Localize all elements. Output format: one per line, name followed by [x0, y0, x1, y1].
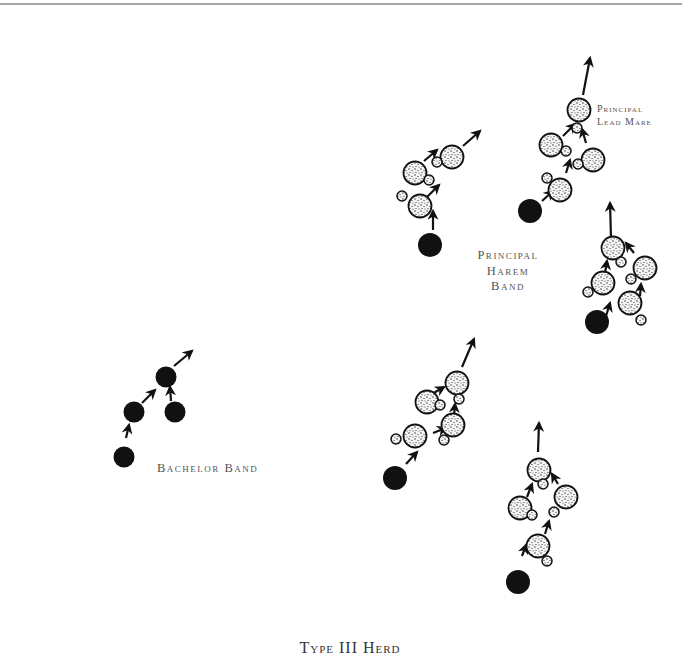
movement-arrow-icon [463, 131, 480, 146]
movement-arrow-icon [582, 129, 586, 143]
mare-icon [446, 372, 469, 395]
mare-icon [528, 459, 551, 482]
movement-arrow-icon [126, 425, 129, 438]
foal-icon [454, 394, 464, 404]
foal-icon [583, 287, 593, 297]
foal-icon [549, 507, 559, 517]
foal-icon [439, 435, 449, 445]
stallion-icon [585, 310, 609, 334]
label-line: Principal [597, 104, 652, 114]
mare-icon [442, 414, 465, 437]
movement-arrow-icon [552, 474, 558, 484]
movement-arrow-icon [583, 58, 590, 95]
movement-arrow-icon [566, 160, 570, 173]
harem-band-upper-left [397, 131, 480, 257]
harem-band-lower-right [506, 423, 578, 594]
mare-icon [619, 292, 642, 315]
mare-icon [404, 425, 427, 448]
bachelor-band [114, 351, 193, 468]
herd-groups [114, 58, 657, 594]
movement-arrow-icon [406, 452, 417, 464]
foal-icon [573, 159, 583, 169]
harem-band-lower-middle [383, 339, 474, 490]
label-line: Lead Mare [597, 117, 652, 127]
foal-icon [432, 157, 442, 167]
movement-arrow-icon [527, 484, 532, 497]
figure-title-text: Type III Herd [299, 639, 400, 656]
stallion-icon [124, 402, 145, 423]
movement-arrow-icon [640, 284, 641, 296]
mare-icon [441, 146, 464, 169]
foal-icon [561, 146, 571, 156]
stallion-icon [114, 447, 135, 468]
movement-arrow-icon [610, 203, 611, 238]
foal-icon [542, 556, 552, 566]
label-principal-harem-band: Principal Harem Band [472, 249, 544, 293]
figure-title: Type III Herd [250, 640, 450, 656]
mare-icon [549, 179, 572, 202]
label-bachelor-band: Bachelor Band [157, 462, 258, 475]
mare-icon [592, 272, 615, 295]
movement-arrow-icon [170, 387, 171, 401]
mare-icon [555, 486, 578, 509]
label-line: Harem [472, 265, 544, 278]
foal-icon [435, 400, 445, 410]
movement-arrow-icon [626, 243, 634, 253]
mare-icon [409, 195, 432, 218]
movement-arrow-icon [174, 351, 192, 366]
stallion-icon [418, 233, 442, 257]
mare-icon [568, 99, 591, 122]
label-line: Band [472, 280, 544, 293]
movement-arrow-icon [538, 423, 539, 452]
mare-icon [602, 237, 625, 260]
mare-icon [582, 149, 605, 172]
label-line: Principal [472, 249, 544, 262]
mare-icon [404, 162, 427, 185]
foal-icon [626, 274, 636, 284]
foal-icon [616, 257, 626, 267]
foal-icon [538, 479, 548, 489]
label-line: Bachelor Band [157, 461, 258, 475]
movement-arrow-icon [522, 545, 526, 556]
type-iii-herd-diagram [0, 0, 699, 665]
mare-icon [634, 257, 657, 280]
foal-icon [391, 434, 401, 444]
movement-arrow-icon [462, 339, 474, 367]
stallion-icon [506, 570, 530, 594]
stallion-icon [518, 199, 542, 223]
mare-icon [540, 134, 563, 157]
movement-arrow-icon [606, 303, 610, 316]
mare-icon [527, 535, 550, 558]
foal-icon [527, 510, 537, 520]
movement-arrow-icon [427, 185, 439, 197]
movement-arrow-icon [545, 521, 549, 534]
label-principal-lead-mare: Principal Lead Mare [597, 104, 652, 127]
mare-icon [416, 391, 439, 414]
harem-band-right [583, 203, 657, 334]
movement-arrow-icon [142, 390, 155, 403]
foal-icon [572, 123, 582, 133]
foal-icon [397, 191, 407, 201]
foal-icon [542, 173, 552, 183]
harem-band-principal [518, 58, 605, 223]
foal-icon [636, 315, 646, 325]
foal-icon [424, 175, 434, 185]
stallion-icon [165, 402, 186, 423]
stallion-icon [383, 466, 407, 490]
stallion-icon [156, 367, 177, 388]
